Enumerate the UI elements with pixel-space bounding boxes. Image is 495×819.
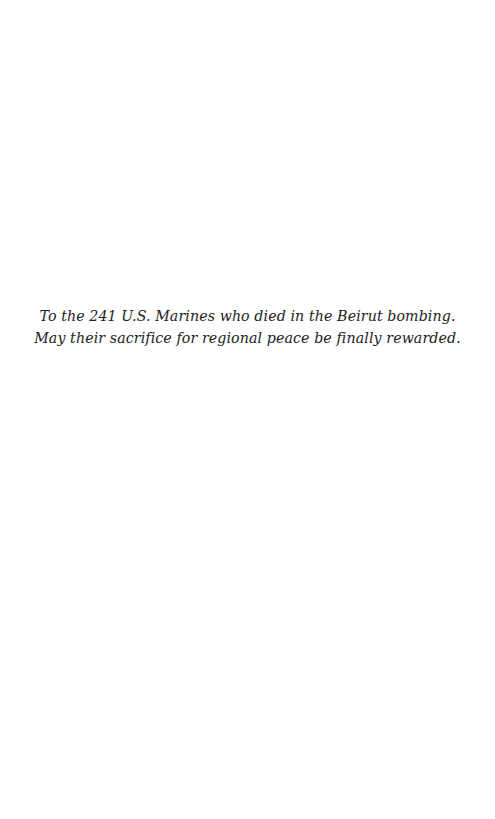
dedication-line-1: To the 241 U.S. Marines who died in the … bbox=[0, 305, 495, 327]
dedication-text: To the 241 U.S. Marines who died in the … bbox=[0, 305, 495, 349]
dedication-line-2: May their sacrifice for regional peace b… bbox=[0, 327, 495, 349]
dedication-page: To the 241 U.S. Marines who died in the … bbox=[0, 0, 495, 819]
